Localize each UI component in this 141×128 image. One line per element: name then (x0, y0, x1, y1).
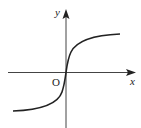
function-graph: y x O (0, 0, 141, 128)
origin-label: O (52, 76, 60, 88)
y-axis-label: y (54, 6, 60, 18)
x-axis-label: x (129, 75, 135, 87)
